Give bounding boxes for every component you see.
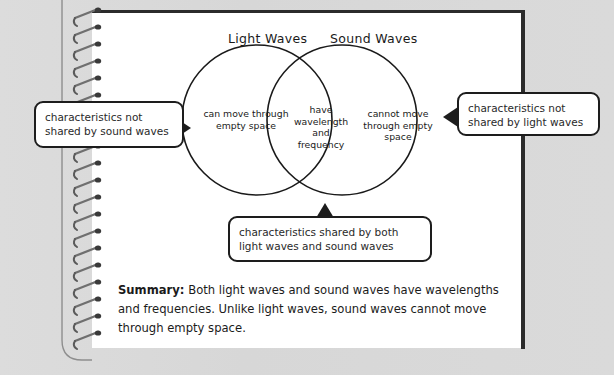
page-right-border bbox=[521, 10, 525, 349]
venn-region-left-text: can move through empty space bbox=[198, 108, 294, 131]
callout-left: characteristics not shared by sound wave… bbox=[34, 101, 184, 148]
callout-right: characteristics not shared by light wave… bbox=[457, 92, 600, 136]
spiral-binding bbox=[72, 6, 112, 358]
callout-right-pointer-icon bbox=[443, 107, 458, 127]
callout-bottom: characteristics shared by both light wav… bbox=[228, 216, 432, 262]
venn-title-right: Sound Waves bbox=[330, 31, 417, 46]
summary-label: Summary: bbox=[118, 283, 185, 297]
venn-region-right-text: cannot move through empty space bbox=[349, 108, 447, 143]
venn-region-center-text: have wavelength and frequency bbox=[292, 104, 350, 150]
page-top-border bbox=[92, 10, 525, 13]
venn-title-left: Light Waves bbox=[228, 31, 307, 46]
summary-paragraph: Summary: Both light waves and sound wave… bbox=[118, 281, 514, 338]
